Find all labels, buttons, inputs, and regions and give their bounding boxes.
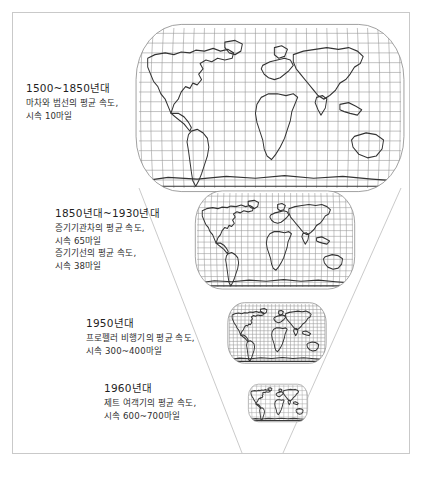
caption-year: 1950년대: [86, 316, 195, 331]
caption-year: 1850년대~1930년대: [55, 206, 160, 221]
speed-shrinking-world-figure: 1500~1850년대 마차와 범선의 평균 속도, 시속 10마일 1850년…: [0, 0, 422, 484]
caption-line: 증기기관차의 평균 속도,: [55, 222, 160, 234]
caption-year: 1500~1850년대: [26, 81, 118, 96]
caption-1960: 1960년대 제트 여객기의 평균 속도, 시속 600~700마일: [104, 381, 196, 422]
caption-line: 시속 300~400마일: [86, 345, 195, 357]
caption-year: 1960년대: [104, 381, 196, 396]
caption-line: 프로펠러 비행기의 평균 속도,: [86, 332, 195, 344]
caption-1850-1930: 1850년대~1930년대 증기기관차의 평균 속도, 시속 65마일 증기기선…: [55, 206, 160, 272]
caption-line: 증기기선의 평균 속도,: [55, 247, 160, 259]
caption-1500-1850: 1500~1850년대 마차와 범선의 평균 속도, 시속 10마일: [26, 81, 118, 122]
caption-line: 마차와 범선의 평균 속도,: [26, 97, 118, 109]
caption-line: 시속 38마일: [55, 260, 160, 272]
caption-line: 제트 여객기의 평균 속도,: [104, 397, 196, 409]
caption-1950: 1950년대 프로펠러 비행기의 평균 속도, 시속 300~400마일: [86, 316, 195, 357]
caption-line: 시속 10마일: [26, 110, 118, 122]
caption-line: 시속 65마일: [55, 235, 160, 247]
caption-line: 시속 600~700마일: [104, 410, 196, 422]
